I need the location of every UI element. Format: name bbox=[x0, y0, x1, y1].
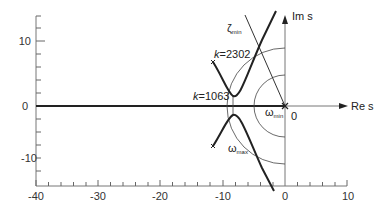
omega-min-label: ωmin bbox=[265, 106, 283, 119]
zeta-min-label: ζmin bbox=[227, 22, 242, 35]
x-tick-label-neg10: -10 bbox=[215, 190, 231, 202]
zeta-min-line bbox=[245, 15, 285, 106]
x-tick-label-10: 10 bbox=[342, 190, 354, 202]
y-axis-ticks bbox=[36, 16, 45, 171]
y-tick-label-10: 10 bbox=[19, 35, 31, 47]
k-1063-label: k=1063 bbox=[193, 90, 229, 102]
omega-min-arc-upper bbox=[254, 75, 285, 106]
y-tick-label-neg10: -10 bbox=[21, 152, 37, 164]
imaginary-axis-arrow-icon bbox=[282, 15, 288, 24]
x-tick-label-neg30: -30 bbox=[90, 190, 106, 202]
real-axis-arrow-icon bbox=[339, 103, 348, 109]
k-2302-label: k=2302 bbox=[214, 48, 250, 60]
x-tick-label-neg40: -40 bbox=[28, 190, 44, 202]
x-tick-label-0: 0 bbox=[282, 190, 288, 202]
x-axis-ticks bbox=[36, 180, 347, 186]
origin-label: 0 bbox=[291, 110, 297, 122]
omega-max-label: ωmax bbox=[228, 142, 248, 155]
real-axis-label: Re s bbox=[351, 100, 374, 112]
y-tick-label-0: 0 bbox=[22, 100, 28, 112]
root-locus-plot: 10 0 -10 -40 -30 -20 -10 0 10 Im s Re s … bbox=[0, 0, 385, 217]
imaginary-axis-label: Im s bbox=[292, 10, 313, 22]
x-tick-label-neg20: -20 bbox=[152, 190, 168, 202]
